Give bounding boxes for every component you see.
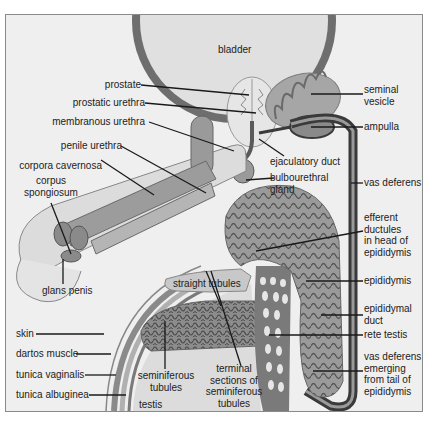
label-seminal-vesicle: seminal vesicle xyxy=(364,84,398,107)
label-membranous-urethra: membranous urethra xyxy=(41,116,145,128)
corpus-spongiosum xyxy=(61,250,81,262)
label-bulbourethral-gland: bulbourethral gland xyxy=(270,172,328,195)
label-testis: testis xyxy=(139,399,162,411)
label-tunica-vaginalis: tunica vaginalis xyxy=(16,369,84,381)
label-penile-urethra: penile urethra xyxy=(11,140,122,152)
label-efferent-ductules: efferent ductules in head of epididymis xyxy=(364,212,411,258)
label-ampulla: ampulla xyxy=(364,121,399,133)
label-vas-deferens-emerging: vas deferens emerging from tail of epidi… xyxy=(364,351,421,397)
label-epididymal-duct: epididymal duct xyxy=(364,303,412,326)
label-glans-penis: glans penis xyxy=(42,285,93,297)
label-epididymis: epididymis xyxy=(364,275,411,287)
label-straight-tubules: straight tubules xyxy=(173,278,241,290)
seminiferous-tubules xyxy=(141,301,259,351)
label-corpora-cavernosa: corpora cavernosa xyxy=(11,160,102,172)
label-ejaculatory-duct: ejaculatory duct xyxy=(270,156,340,168)
label-skin: skin xyxy=(16,328,34,340)
label-prostate: prostate xyxy=(41,79,141,91)
label-rete-testis: rete testis xyxy=(364,329,407,341)
label-corpus-spongiosum: corpus spongiosum xyxy=(21,175,81,198)
label-prostatic-urethra: prostatic urethra xyxy=(41,97,145,109)
label-bladder: bladder xyxy=(218,44,251,56)
label-terminal-sections: terminal sections of seminiferous tubule… xyxy=(199,363,269,409)
label-vas-deferens: vas deferens xyxy=(364,177,421,189)
label-seminiferous-tubules: seminiferous tubules xyxy=(131,370,201,393)
label-tunica-albuginea: tunica albuginea xyxy=(16,389,89,401)
label-dartos-muscle: dartos muscle xyxy=(16,348,78,360)
diagram-frame: bladder prostate prostatic urethra membr… xyxy=(5,14,423,412)
